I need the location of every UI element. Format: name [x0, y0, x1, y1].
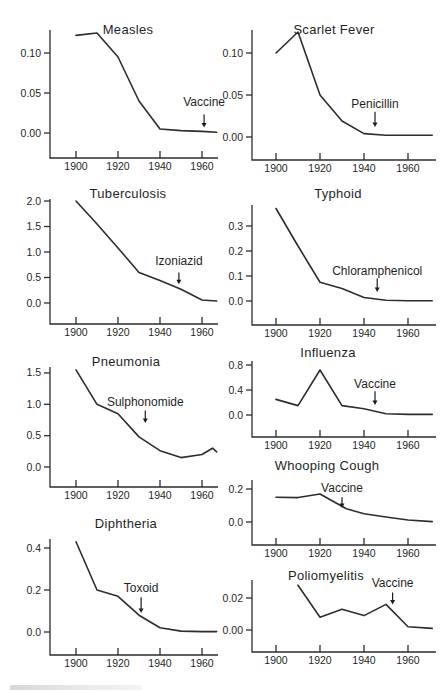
x-tick-label: 1940 [148, 657, 172, 669]
x-tick-label: 1960 [396, 654, 420, 666]
axis-lines [252, 361, 436, 437]
axis-lines [50, 367, 218, 487]
y-tick-label: 0.5 [26, 429, 41, 441]
axis-lines [50, 539, 218, 655]
y-tick-label: 0.0 [228, 295, 243, 307]
y-tick-label: 1.5 [26, 366, 41, 378]
y-tick-label: 0.10 [21, 47, 42, 59]
y-tick-label: 0.00 [223, 131, 244, 143]
scarlet-fever-series-line [276, 32, 432, 135]
x-tick-label: 1960 [190, 489, 214, 501]
x-tick-label: 1920 [308, 162, 332, 174]
x-tick-label: 1920 [308, 327, 332, 339]
x-tick-label: 1940 [148, 489, 172, 501]
annotation-arrow-head [202, 123, 207, 128]
x-tick-label: 1960 [396, 439, 420, 451]
tuberculosis-series-line [76, 201, 217, 301]
x-tick-label: 1920 [106, 489, 130, 501]
x-tick-label: 1940 [352, 547, 376, 559]
scarlet-fever-annotation-label: Penicillin [351, 97, 398, 111]
measles-chart: 0.000.050.101900192019401960MeaslesVacci… [0, 6, 222, 176]
x-tick-label: 1920 [308, 654, 332, 666]
x-tick-label: 1940 [148, 160, 172, 172]
y-tick-label: 0.2 [228, 245, 243, 257]
scarlet-fever-title: Scarlet Fever [293, 22, 375, 37]
x-tick-label: 1940 [352, 327, 376, 339]
y-tick-label: 0.2 [26, 584, 41, 596]
x-tick-label: 1900 [64, 160, 88, 172]
x-tick-label: 1900 [64, 489, 88, 501]
y-tick-label: 0.10 [223, 47, 244, 59]
y-tick-label: 0.0 [228, 516, 243, 528]
pneumonia-annotation-label: Sulphonomide [107, 395, 184, 409]
tuberculosis-chart: 0.00.51.01.52.01900192019401960Tuberculo… [0, 178, 222, 344]
y-tick-label: 1.0 [26, 398, 41, 410]
x-tick-label: 1960 [190, 657, 214, 669]
annotation-arrow-head [176, 280, 181, 285]
y-tick-label: 0.1 [228, 270, 243, 282]
measles-title: Measles [103, 22, 154, 37]
y-tick-label: 0.0 [26, 461, 41, 473]
whooping-cough-annotation-label: Vaccine [321, 481, 363, 495]
x-tick-label: 1920 [106, 657, 130, 669]
x-tick-label: 1940 [148, 326, 172, 338]
x-tick-label: 1900 [264, 327, 288, 339]
measles-series-line [76, 33, 217, 132]
cropped-caption-remnant [10, 685, 142, 690]
y-tick-label: 0.8 [228, 359, 243, 371]
whooping-cough-title: Whooping Cough [275, 458, 380, 473]
y-tick-label: 0.0 [26, 626, 41, 638]
x-tick-label: 1940 [352, 654, 376, 666]
typhoid-series-line [276, 209, 432, 301]
tuberculosis-title: Tuberculosis [90, 186, 167, 201]
poliomyelitis-chart: 0.000.021900192019401960PoliomyelitisVac… [222, 564, 444, 682]
y-tick-label: 0.0 [26, 297, 41, 309]
y-tick-label: 0.3 [228, 220, 243, 232]
poliomyelitis-series-line [298, 585, 432, 628]
annotation-arrow-head [375, 288, 380, 293]
measles-annotation-label: Vaccine [183, 95, 225, 109]
annotation-arrow-head [373, 401, 378, 406]
x-tick-label: 1900 [64, 326, 88, 338]
y-tick-label: 0.00 [223, 624, 244, 636]
x-tick-label: 1960 [396, 162, 420, 174]
whooping-cough-series-line [276, 494, 432, 522]
mortality-charts-figure: 0.000.050.101900192019401960MeaslesVacci… [0, 0, 444, 692]
x-tick-label: 1920 [106, 160, 130, 172]
influenza-annotation-label: Vaccine [354, 377, 396, 391]
y-tick-label: 1.0 [26, 246, 41, 258]
y-tick-label: 0.4 [26, 542, 41, 554]
pneumonia-chart: 0.00.51.01.51900192019401960PneumoniaSul… [0, 346, 222, 506]
typhoid-chart: 0.00.10.20.31900192019401960TyphoidChlor… [222, 178, 444, 344]
tuberculosis-annotation-label: Izoniazid [155, 254, 202, 268]
y-tick-label: 0.5 [26, 271, 41, 283]
typhoid-title: Typhoid [314, 186, 362, 201]
diphtheria-chart: 0.00.20.41900192019401960DiphtheriaToxoi… [0, 510, 222, 682]
diphtheria-annotation-label: Toxoid [124, 581, 159, 595]
annotation-arrow-head [139, 609, 144, 614]
scarlet-fever-chart: 0.000.050.101900192019401960Scarlet Feve… [222, 6, 444, 176]
x-tick-label: 1960 [190, 160, 214, 172]
pneumonia-series-line [76, 370, 217, 458]
x-tick-label: 1900 [264, 547, 288, 559]
diphtheria-title: Diphtheria [95, 516, 158, 531]
x-tick-label: 1960 [396, 327, 420, 339]
y-tick-label: 0.05 [21, 87, 42, 99]
x-tick-label: 1960 [190, 326, 214, 338]
axis-lines [252, 580, 436, 652]
poliomyelitis-title: Poliomyelitis [288, 568, 364, 583]
x-tick-label: 1920 [308, 439, 332, 451]
x-tick-label: 1900 [264, 439, 288, 451]
annotation-arrow-head [390, 600, 395, 605]
y-tick-label: 2.0 [26, 195, 41, 207]
x-tick-label: 1900 [264, 654, 288, 666]
x-tick-label: 1920 [308, 547, 332, 559]
y-tick-label: 0.02 [223, 592, 244, 604]
x-tick-label: 1900 [64, 657, 88, 669]
x-tick-label: 1900 [264, 162, 288, 174]
y-tick-label: 0.00 [21, 127, 42, 139]
y-tick-label: 0.0 [228, 409, 243, 421]
typhoid-annotation-label: Chloramphenicol [332, 264, 422, 278]
influenza-chart: 0.00.40.81900192019401960InfluenzaVaccin… [222, 341, 444, 455]
influenza-title: Influenza [300, 345, 356, 360]
